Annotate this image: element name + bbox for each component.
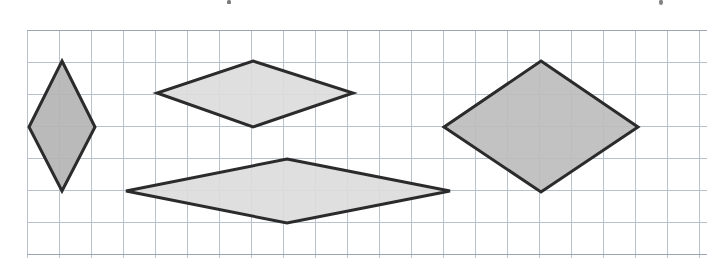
rhombus-upper-middle: [157, 61, 353, 127]
rhombus-figures: [0, 0, 724, 268]
clipped-text-descender-left: [227, 0, 231, 4]
figure-page: [0, 0, 724, 268]
rhombus-narrow-vertical: [29, 61, 95, 191]
shapes-svg: [0, 0, 724, 268]
shape-group: [29, 61, 638, 223]
clipped-text-descender-right: [659, 0, 663, 5]
rhombus-lower-middle-flat: [126, 159, 450, 223]
rhombus-large-right: [444, 61, 638, 192]
